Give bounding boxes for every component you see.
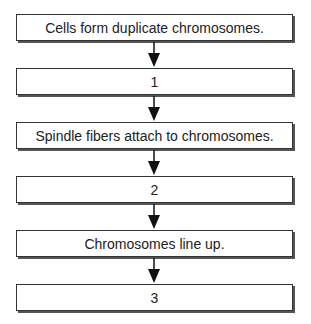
step-box-5: Chromosomes line up. — [16, 230, 293, 257]
step-label: 3 — [151, 290, 159, 306]
arrow-down-icon — [148, 258, 160, 283]
step-box-6: 3 — [16, 284, 293, 311]
arrow-down-icon — [148, 150, 160, 175]
step-box-2: 1 — [16, 68, 293, 95]
step-label: 1 — [151, 74, 159, 90]
arrow-down-icon — [148, 204, 160, 229]
step-box-4: 2 — [16, 176, 293, 203]
arrow-down-icon — [148, 96, 160, 121]
step-box-1: Cells form duplicate chromosomes. — [16, 14, 293, 41]
step-box-3: Spindle fibers attach to chromosomes. — [16, 122, 293, 149]
arrow-down-icon — [148, 42, 160, 67]
step-label: Chromosomes line up. — [84, 236, 224, 252]
step-label: Cells form duplicate chromosomes. — [45, 20, 264, 36]
step-label: 2 — [151, 182, 159, 198]
step-label: Spindle fibers attach to chromosomes. — [35, 128, 273, 144]
